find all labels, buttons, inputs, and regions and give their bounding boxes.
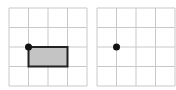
shaded-rectangle [29,47,68,67]
right-grid [97,8,175,86]
left-grid [9,8,87,86]
diagram-canvas [0,0,176,90]
anchor-point [25,44,32,51]
anchor-point [113,44,120,51]
